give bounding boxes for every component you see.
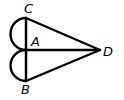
label-A: A xyxy=(30,34,40,49)
semicircle-AB xyxy=(10,50,26,81)
label-D: D xyxy=(103,44,113,59)
label-C: C xyxy=(24,1,34,16)
geometry-diagram: C A B D xyxy=(0,0,124,100)
semicircle-CA xyxy=(10,18,26,50)
segment-BD xyxy=(26,50,100,81)
label-B: B xyxy=(21,82,30,97)
